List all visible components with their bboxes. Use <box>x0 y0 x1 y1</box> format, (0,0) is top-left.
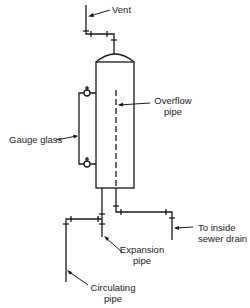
gauge-glass <box>79 86 96 167</box>
label-overflow-pipe: Overflow pipe <box>152 95 194 117</box>
label-drain: To inside sewer drain <box>198 222 247 244</box>
label-circulating-pipe: Circulating pipe <box>88 282 138 304</box>
label-circulating-line2: pipe <box>88 293 138 304</box>
label-gauge-glass: Gauge glass <box>9 134 62 145</box>
arrowheads <box>67 13 179 275</box>
label-overflow-line1: Overflow <box>152 95 194 106</box>
label-expansion-pipe: Expansion pipe <box>118 244 166 266</box>
label-vent: Vent <box>112 4 131 15</box>
label-circulating-line1: Circulating <box>88 282 138 293</box>
tank <box>96 54 134 188</box>
label-overflow-line2: pipe <box>152 106 194 117</box>
drain-pipe <box>113 188 175 240</box>
label-drain-line2: sewer drain <box>198 233 247 244</box>
label-expansion-line2: pipe <box>118 255 166 266</box>
label-drain-line1: To inside <box>198 222 247 233</box>
label-expansion-line1: Expansion <box>118 244 166 255</box>
expansion-pipe <box>99 188 105 237</box>
